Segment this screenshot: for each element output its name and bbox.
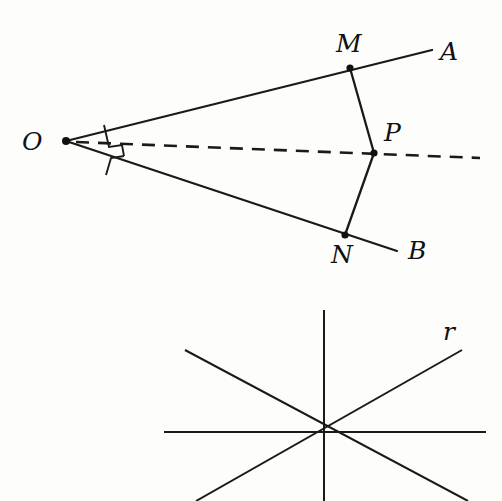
vertex-dot-n [341, 231, 348, 238]
segment-pn [345, 153, 374, 235]
angle-bisector-diagram: O M N P A B [22, 29, 480, 269]
figure-sheet: O M N P A B r [0, 0, 502, 501]
ray-oa-line [66, 50, 432, 141]
diagonal-sw-ne-line [196, 350, 462, 501]
diagonal-nw-se-line [185, 350, 468, 501]
label-ray-r: r [443, 317, 457, 346]
label-ray-b: B [407, 236, 426, 265]
label-ray-a: A [438, 37, 458, 66]
eight-ray-star-diagram: r [164, 310, 486, 501]
segment-mp [350, 68, 374, 153]
label-point-p: P [383, 118, 402, 147]
label-point-m: M [335, 29, 363, 58]
vertex-dot-m [346, 64, 353, 71]
angle-bisector-dashed-line [76, 142, 480, 158]
label-point-n: N [330, 240, 354, 269]
label-point-o: O [22, 127, 43, 156]
vertex-dot-p [370, 149, 377, 156]
vertex-dot-o [62, 137, 70, 145]
geometry-canvas: O M N P A B r [0, 0, 502, 501]
